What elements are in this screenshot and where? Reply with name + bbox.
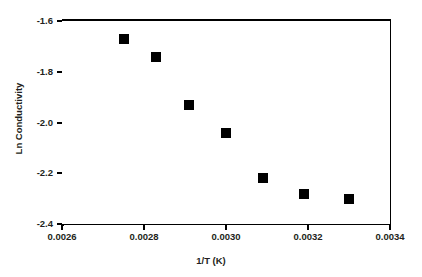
y-tick-label: -1.6 xyxy=(0,16,53,26)
chart-figure: -1.6-1.8-2.0-2.2-2.4 0.00260.00280.00300… xyxy=(0,0,422,277)
x-tick-mark xyxy=(61,225,63,230)
x-tick-label: 0.0032 xyxy=(278,232,338,242)
x-tick-mark xyxy=(225,225,227,230)
x-tick-label: 0.0028 xyxy=(114,232,174,242)
x-tick-mark xyxy=(307,225,309,230)
x-axis-label: 1/T (K) xyxy=(0,255,422,266)
data-point-marker xyxy=(258,173,268,183)
x-tick-label: 0.0030 xyxy=(196,232,256,242)
data-point-marker xyxy=(221,128,231,138)
x-tick-mark xyxy=(389,225,391,230)
y-tick-label: -2.4 xyxy=(0,219,53,229)
data-point-marker xyxy=(119,34,129,44)
x-tick-mark xyxy=(143,225,145,230)
y-tick-label: -2.2 xyxy=(0,168,53,178)
data-point-marker xyxy=(184,100,194,110)
y-axis-label: Ln Conductivity xyxy=(13,59,24,179)
y-tick-label: -2.0 xyxy=(0,118,53,128)
data-point-marker xyxy=(344,194,354,204)
data-point-marker xyxy=(299,189,309,199)
plot-area xyxy=(62,21,390,224)
x-tick-label: 0.0026 xyxy=(32,232,92,242)
x-tick-label: 0.0034 xyxy=(360,232,420,242)
data-point-marker xyxy=(151,52,161,62)
y-tick-label: -1.8 xyxy=(0,67,53,77)
